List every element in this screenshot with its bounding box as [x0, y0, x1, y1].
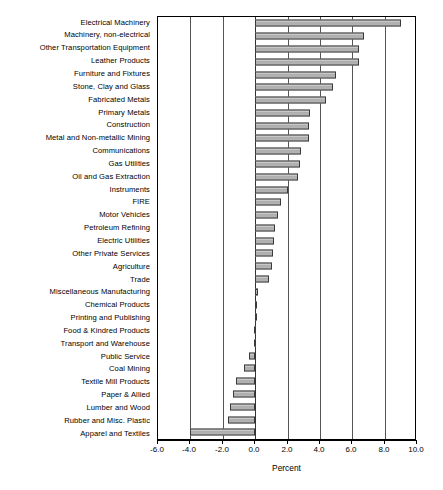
category-label: Petroleum Refining: [0, 222, 154, 235]
x-axis-tick: [416, 440, 417, 444]
bar-row: [158, 43, 415, 56]
bar-row: [158, 337, 415, 350]
category-label: Electric Utilities: [0, 234, 154, 247]
bar-row: [158, 311, 415, 324]
bar-row: [158, 196, 415, 209]
bars-container: [158, 17, 415, 439]
x-axis-tick: [351, 440, 352, 444]
category-label: Communications: [0, 144, 154, 157]
bar-row: [158, 158, 415, 171]
bar: [255, 71, 336, 78]
bar: [228, 416, 255, 423]
category-label: Leather Products: [0, 55, 154, 68]
category-label: Gas Utilities: [0, 157, 154, 170]
category-label: Construction: [0, 119, 154, 132]
x-axis-tick-label: 4.0: [313, 446, 324, 454]
bar-row: [158, 324, 415, 337]
category-axis-labels: Electrical MachineryMachinery, non-elect…: [0, 16, 154, 440]
bar: [230, 403, 255, 410]
category-label: Rubber and Misc. Plastic: [0, 414, 154, 427]
x-axis-tick: [189, 440, 190, 444]
bar-row: [158, 298, 415, 311]
bar-row: [158, 132, 415, 145]
bar: [255, 173, 298, 180]
bar: [255, 58, 359, 65]
category-label: Machinery, non-electrical: [0, 29, 154, 42]
bar: [255, 135, 309, 142]
bar-row: [158, 55, 415, 68]
category-label: FIRE: [0, 196, 154, 209]
bar: [233, 391, 255, 398]
bar: [255, 224, 274, 231]
bar-row: [158, 81, 415, 94]
category-label: Instruments: [0, 183, 154, 196]
bar-row: [158, 349, 415, 362]
bar: [255, 288, 257, 295]
x-axis-tick-label: 2.0: [281, 446, 292, 454]
bar: [255, 301, 257, 308]
x-axis-tick-label: 0.0: [248, 446, 259, 454]
bar-row: [158, 413, 415, 426]
bar: [190, 429, 255, 436]
x-axis-tick: [254, 440, 255, 444]
bar-row: [158, 17, 415, 30]
category-label: Apparel and Textiles: [0, 427, 154, 440]
bar-row: [158, 260, 415, 273]
category-label: Other Transportation Equipment: [0, 42, 154, 55]
category-label: Lumber and Wood: [0, 401, 154, 414]
bar-row: [158, 106, 415, 119]
bar-row: [158, 183, 415, 196]
bar-row: [158, 68, 415, 81]
bar: [255, 33, 363, 40]
category-label: Food & Kindred Products: [0, 324, 154, 337]
bar: [255, 237, 274, 244]
category-label: Coal Mining: [0, 363, 154, 376]
bar-row: [158, 375, 415, 388]
bar: [255, 122, 308, 129]
bar: [255, 314, 257, 321]
bar: [244, 365, 255, 372]
category-label: Miscellaneous Manufacturing: [0, 286, 154, 299]
category-label: Chemical Products: [0, 299, 154, 312]
x-axis-tick-label: 8.0: [378, 446, 389, 454]
bar: [254, 327, 256, 334]
bar: [255, 20, 401, 27]
x-axis-tick-label: -4.0: [182, 446, 196, 454]
bar-row: [158, 170, 415, 183]
bar: [249, 352, 255, 359]
category-label: Metal and Non-metallic Mining: [0, 132, 154, 145]
category-label: Motor Vehicles: [0, 209, 154, 222]
category-label: Oil and Gas Extraction: [0, 170, 154, 183]
bar: [255, 276, 269, 283]
plot-area: [157, 16, 416, 440]
bar-row: [158, 94, 415, 107]
bar: [255, 250, 273, 257]
x-axis-tick: [384, 440, 385, 444]
x-axis-tick-label: -6.0: [150, 446, 164, 454]
x-axis-tick-label: 6.0: [345, 446, 356, 454]
bar: [255, 199, 281, 206]
bar-row: [158, 119, 415, 132]
category-label: Furniture and Fixtures: [0, 67, 154, 80]
bar: [255, 148, 301, 155]
bar: [255, 109, 310, 116]
bar: [255, 160, 300, 167]
bar-row: [158, 273, 415, 286]
bar: [255, 97, 326, 104]
horizontal-bar-chart: Electrical MachineryMachinery, non-elect…: [0, 0, 443, 490]
category-label: Textile Mill Products: [0, 376, 154, 389]
category-label: Printing and Publishing: [0, 311, 154, 324]
bar: [255, 45, 359, 52]
category-label: Primary Metals: [0, 106, 154, 119]
bar-row: [158, 400, 415, 413]
x-axis-tick: [222, 440, 223, 444]
category-label: Transport and Warehouse: [0, 337, 154, 350]
bar-row: [158, 362, 415, 375]
x-axis-tick: [157, 440, 158, 444]
bar: [254, 339, 256, 346]
category-label: Fabricated Metals: [0, 93, 154, 106]
bar: [255, 84, 333, 91]
bar: [236, 378, 255, 385]
bar-row: [158, 209, 415, 222]
bar-row: [158, 388, 415, 401]
